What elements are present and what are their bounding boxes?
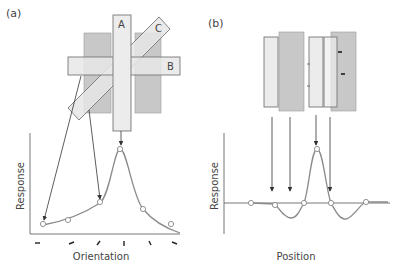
- position-arrows: [272, 115, 330, 191]
- y-axis-label-b: Response: [209, 162, 220, 210]
- arrow-b-to-curve: [44, 76, 81, 220]
- bar-position-1: [264, 37, 278, 107]
- x-axis-label: Orientation: [73, 251, 129, 262]
- data-points: [40, 146, 173, 226]
- y-axis-label: Response: [15, 162, 26, 210]
- bar-a-label: A: [118, 19, 125, 30]
- arrow-c-to-curve: [89, 110, 100, 199]
- orientation-ticks: [35, 241, 177, 246]
- tuning-curve: [43, 149, 180, 233]
- panel-b: (b): [208, 17, 390, 262]
- bar-c-label: C: [155, 23, 162, 34]
- position-response-curve: [251, 149, 388, 219]
- bar-b-label: B: [167, 61, 174, 72]
- bar-position-3: [324, 37, 337, 107]
- bar-position-2: [309, 37, 323, 107]
- figure: (a) C B A: [0, 0, 405, 274]
- data-points-b: [248, 146, 368, 207]
- panel-a: (a) C B A: [6, 7, 180, 262]
- panel-a-label: (a): [6, 7, 21, 20]
- x-axis-label-b: Position: [277, 251, 316, 262]
- gray-region-left: [279, 32, 304, 111]
- bar-a: A: [113, 15, 131, 131]
- panel-b-label: (b): [208, 17, 224, 30]
